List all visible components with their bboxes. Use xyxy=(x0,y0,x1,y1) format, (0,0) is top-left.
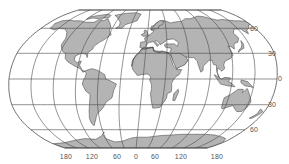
longitude-label: 180 xyxy=(211,153,223,160)
longitude-label: 60 xyxy=(151,153,159,160)
longitude-label: 120 xyxy=(175,153,187,160)
japan-landmass xyxy=(238,41,244,53)
graticule xyxy=(9,10,277,148)
latitude-label: 60 xyxy=(250,25,258,32)
antarctica-landmass xyxy=(53,132,225,148)
longitude-label: 60 xyxy=(113,153,121,160)
north-america-landmass xyxy=(50,19,111,72)
new-guinea-landmass xyxy=(241,80,254,88)
australia-landmass xyxy=(222,88,251,111)
latitude-label: 0 xyxy=(278,75,282,82)
latitude-label: 60 xyxy=(250,126,258,133)
latitude-label: 30 xyxy=(268,50,276,57)
world-map xyxy=(0,0,289,164)
latitude-label: 30 xyxy=(268,101,276,108)
south-america-landmass xyxy=(82,69,116,126)
longitude-label: 180 xyxy=(60,153,72,160)
longitude-label: 120 xyxy=(86,153,98,160)
new-zealand-landmass xyxy=(249,109,263,118)
greenland-landmass xyxy=(115,13,141,29)
madagascar-landmass xyxy=(173,89,179,100)
longitude-label: 0 xyxy=(134,153,138,160)
